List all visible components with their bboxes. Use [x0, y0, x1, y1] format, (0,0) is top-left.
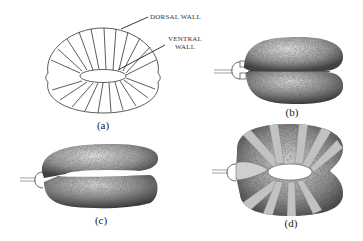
ventral-wall-label: VENTRAL WALL [168, 35, 202, 51]
panel-c-label: (c) [95, 214, 107, 226]
panel-d-banded-torus [212, 120, 350, 220]
dorsal-wall-leader [121, 17, 148, 29]
dorsal-wall-label: DORSAL WALL [150, 13, 201, 21]
ventral-wall-label-line2: WALL [168, 43, 202, 51]
panel-a-label: (a) [97, 119, 109, 131]
panel-c-partially-inflated-torus [20, 144, 158, 208]
panel-d-label: (d) [285, 217, 298, 229]
panel-a-torus-drawing [46, 28, 161, 113]
panel-b-collapsed-torus [214, 37, 343, 104]
ventral-wall-label-line1: VENTRAL [168, 35, 202, 43]
torus-hole [268, 164, 312, 180]
panel-b-label: (b) [286, 106, 299, 118]
